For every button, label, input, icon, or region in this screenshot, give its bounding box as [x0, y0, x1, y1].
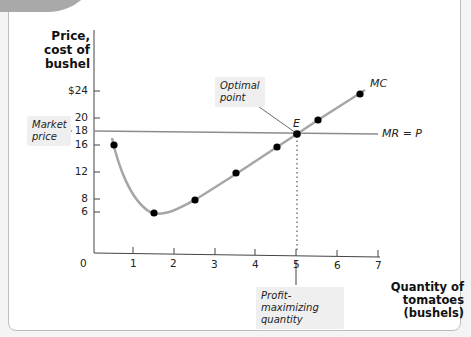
x-tick-label: 4 — [252, 258, 259, 270]
x-tick-label: 2 — [170, 257, 177, 269]
x-axis-label: Quantity of tomatoes (bushels) — [360, 281, 464, 320]
x-tick-label: 0 — [80, 257, 87, 269]
y-tick-label: 6 — [58, 205, 88, 217]
y-tick-label: $24 — [58, 84, 88, 96]
y-axis-label: Price, cost of bushel — [26, 29, 90, 71]
mc-curve — [112, 90, 365, 214]
x-tick-label: 5 — [293, 258, 300, 270]
mc-label: MC — [370, 77, 387, 90]
x-tick-label: 6 — [334, 259, 341, 271]
optimal-point-leader — [255, 104, 296, 133]
y-tick-label: 12 — [58, 165, 88, 177]
mr-label: MR = P — [382, 127, 422, 140]
point-e-label: E — [293, 117, 300, 130]
market-price-callout: Market price — [27, 116, 71, 146]
mr-line — [94, 131, 378, 134]
optimal-point-callout: Optimal point — [215, 77, 265, 107]
x-tick-label: 1 — [130, 257, 137, 269]
profit-max-quantity-callout: Profit-maximizing quantity — [256, 287, 344, 329]
y-tick-label: 8 — [58, 192, 88, 204]
mc-points — [110, 90, 363, 216]
x-tick-label: 7 — [375, 259, 382, 271]
x-tick-label: 3 — [211, 258, 218, 270]
